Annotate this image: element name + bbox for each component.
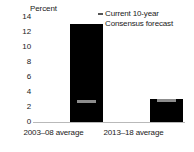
legend-label-line-2: Consensus forecast [105,19,173,29]
x-axis-label-0: 2003–08 average [12,128,95,137]
x-axis-label-1: 2013–18 average [92,128,175,137]
y-tick-label: 14 [5,13,31,21]
y-tick-label: 12 [5,28,31,36]
bar-group [150,17,183,122]
y-tick-label: 4 [5,88,31,96]
chart-container: Percent 02468101214 2003–08 average 2013… [0,0,194,152]
bar-2003-08-average[interactable] [70,24,103,122]
y-tick-label: 6 [5,73,31,81]
y-axis-title: Percent [30,4,57,13]
plot-area [33,17,189,122]
bar-2013-18-average[interactable] [150,99,183,122]
y-tick-label: 10 [5,43,31,51]
legend-label-line-1: Current 10-year [105,9,173,19]
legend-dash-icon [98,13,103,15]
y-tick-label: 8 [5,58,31,66]
forecast-marker-2003-08-average [77,100,95,103]
y-tick-label: 2 [5,103,31,111]
y-tick-label: 0 [5,118,31,126]
legend: Current 10-year Consensus forecast [98,9,173,29]
bar-group [70,17,103,122]
x-axis-baseline [33,122,185,123]
forecast-marker-2013-18-average [157,99,175,102]
